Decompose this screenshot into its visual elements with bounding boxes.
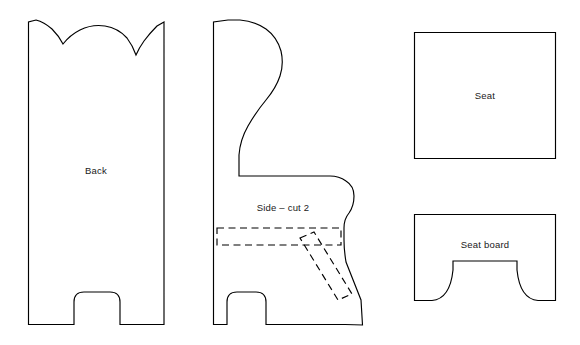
side-outline-path: [214, 20, 363, 325]
piece-seat: Seat: [415, 33, 556, 159]
seat-board-outline-path: [415, 215, 556, 301]
seat-label: Seat: [475, 90, 496, 101]
pattern-canvas: Back Side – cut 2 Seat Seat board: [0, 0, 580, 345]
side-label: Side – cut 2: [257, 202, 310, 213]
seat-board-label: Seat board: [461, 239, 509, 250]
pattern-diagram: Back Side – cut 2 Seat Seat board: [0, 0, 580, 345]
piece-back: Back: [29, 20, 165, 325]
back-label: Back: [85, 165, 107, 176]
piece-side: Side – cut 2: [214, 20, 363, 325]
piece-seat-board: Seat board: [415, 215, 556, 301]
